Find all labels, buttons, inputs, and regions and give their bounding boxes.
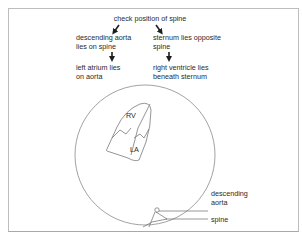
chest-cross-section-circle	[75, 85, 215, 225]
left-step1-line2: lies on spine	[76, 42, 116, 51]
left-step2-line2: on aorta	[76, 72, 102, 81]
callout-aorta-line2: aorta	[211, 198, 227, 207]
left-step2-line1: left atrium lies	[76, 63, 121, 72]
descending-aorta-marker	[155, 208, 159, 212]
echo-orientation-diagram: check position of spine descending aorta…	[0, 0, 302, 236]
root-question: check position of spine	[114, 14, 187, 23]
right-step2-line2: beneath sternum	[153, 72, 207, 81]
right-step1-line2: spine	[153, 42, 170, 51]
chamber-label-rv: RV	[126, 111, 136, 120]
callout-aorta-line1: descending	[211, 189, 248, 198]
arrow-left-diagonal-icon	[114, 25, 119, 32]
right-step2-line1: right ventricle lies	[153, 63, 209, 72]
spine-and-aorta	[143, 208, 208, 227]
callout-spine: spine	[211, 215, 228, 224]
arrow-right-diagonal-icon	[156, 25, 161, 32]
left-step1-line1: descending aorta	[76, 33, 131, 42]
right-step1-line1: sternum lies opposite	[153, 33, 221, 42]
chamber-label-la: LA	[130, 145, 139, 154]
